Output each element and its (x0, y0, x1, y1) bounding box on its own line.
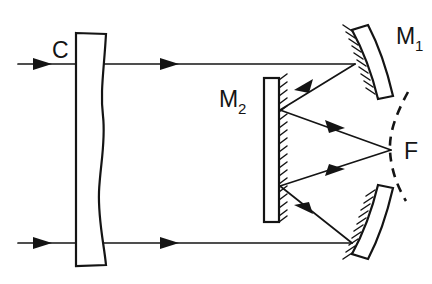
arrowhead-m1-to-m2-lower (294, 202, 313, 214)
primary-mirror-label-base: M (396, 23, 415, 49)
arrowhead-upper-right (160, 58, 179, 70)
corrector-plate (76, 33, 106, 266)
primary-mirror-upper (343, 25, 393, 99)
primary-mirror-lower (343, 185, 393, 259)
arrowhead-upper-left (33, 58, 52, 70)
focus-label-text: F (404, 138, 418, 164)
label-corrector: C (52, 37, 69, 63)
reflected-ray-upper-m1-to-m2 (280, 64, 355, 110)
primary-mirror-label-subscript: 1 (415, 37, 423, 54)
secondary-mirror-hatching (279, 74, 287, 222)
secondary-mirror-label-base: M (219, 86, 238, 112)
optics-canvas: C M 1 M 2 F (0, 0, 432, 284)
label-primary-mirror: M 1 (396, 23, 423, 54)
secondary-mirror (264, 74, 287, 222)
reflected-ray-upper-m2-to-focus (280, 110, 391, 150)
arrowhead-lower-left (33, 237, 52, 249)
label-focus: F (404, 138, 418, 164)
incoming-ray-lower (18, 237, 352, 249)
reflected-ray-lower-m2-to-focus (280, 150, 391, 186)
secondary-mirror-label-subscript: 2 (238, 100, 246, 117)
corrector-label-text: C (52, 37, 69, 63)
optical-diagram: C M 1 M 2 F (0, 0, 432, 284)
label-secondary-mirror: M 2 (219, 86, 246, 117)
arrowhead-m2-to-focus-upper (325, 120, 345, 133)
reflected-ray-lower-m1-to-m2 (280, 186, 352, 243)
arrowhead-lower-right (160, 237, 179, 249)
